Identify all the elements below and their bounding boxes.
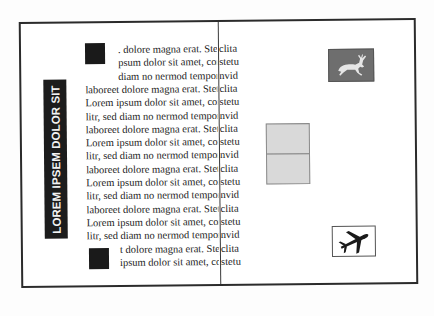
overflow-fragment: clita: [221, 241, 239, 254]
overflow-fragment: nvid: [220, 148, 239, 161]
text-line: laboreet dolore magna erat. Stet clita: [85, 82, 219, 96]
body-text-column: . dolore magna erat. Stet clitapsum dolo…: [85, 42, 219, 273]
text-line: Lorem ipsum dolor sit amet, consetetu: [86, 135, 219, 150]
overflow-fragment: stetu: [220, 135, 240, 148]
text-line: Lorem ipsum dolor sit amet, consetetu: [85, 95, 219, 110]
overflow-fragment: stetu: [219, 95, 239, 108]
overflow-fragment: nvid: [221, 228, 240, 241]
overflow-fragment: nvid: [220, 108, 239, 121]
overflow-fragment: nvid: [220, 188, 239, 201]
overflow-fragment: stetu: [219, 55, 239, 68]
text-line: t dolore magna erat. Stet clita: [120, 241, 219, 255]
overflow-fragment: stetu: [220, 175, 240, 188]
text-line: ipsum dolor sit amet, consetetu: [120, 254, 219, 268]
reindeer-icon: [328, 49, 374, 82]
grey-panel-placeholder: [266, 123, 311, 184]
overflow-fragment: clita: [220, 161, 238, 174]
overflow-fragment: clita: [220, 201, 238, 214]
overflow-fragment: stetu: [221, 215, 241, 228]
vertical-title-banner: LOREM IPSEM DOLOR SIT: [43, 79, 68, 238]
text-line: diam no nermod tempor invid: [118, 68, 219, 82]
overflow-fragment: clita: [220, 122, 238, 135]
overflow-fragment: stetu: [221, 255, 241, 268]
overflow-fragment: nvid: [219, 68, 238, 81]
text-line: psum dolor sit amet, consetetu: [118, 55, 219, 69]
text-line: . dolore magna erat. Stet clita: [118, 42, 219, 56]
text-line: Lorem ipsum dolor sit amet, consetetu: [87, 215, 220, 230]
text-line: laboreet dolore magna erat. Stet clita: [86, 201, 219, 215]
airplane-icon: [332, 225, 376, 256]
text-line: litr, sed diam no nermod tempor invid: [86, 148, 219, 163]
overflow-fragment: clita: [219, 42, 237, 55]
text-line: litr, sed diam no nermod tempor invid: [86, 108, 220, 123]
overflow-fragment: clita: [219, 82, 237, 95]
text-line: laboreet dolore magna erat. Stet clita: [86, 161, 219, 175]
text-line: laboreet dolore magna erat. Stet clita: [86, 122, 219, 136]
panel-divider: [267, 153, 309, 154]
text-line: Lorem ipsum dolor sit amet, consetetu: [86, 175, 219, 190]
vertical-title-text: LOREM IPSEM DOLOR SIT: [49, 85, 62, 234]
layout-frame: LOREM IPSEM DOLOR SIT . dolore magna era…: [19, 18, 419, 288]
text-line: litr, sed diam no nermod tempor invid: [86, 188, 219, 203]
scanned-page: LOREM IPSEM DOLOR SIT . dolore magna era…: [0, 0, 434, 316]
text-line: litr, sed diam no nermod tempor invid: [87, 228, 219, 243]
overflow-text-fragments: clitastetunvidclitastetunvidclitastetunv…: [219, 42, 248, 272]
